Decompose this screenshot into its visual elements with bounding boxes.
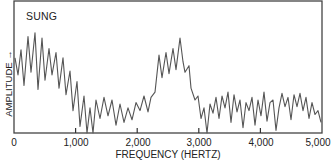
x-tick-label: 2,000 <box>125 137 150 148</box>
y-axis-label: AMPLITUDE → <box>3 48 14 120</box>
x-axis-ticks <box>76 128 261 133</box>
spectrum-trace <box>15 33 321 133</box>
chart-title: SUNG <box>26 10 57 22</box>
x-tick-label: 5,000 <box>305 137 330 148</box>
x-tick-label: 1,000 <box>63 137 88 148</box>
x-tick-label: 4,000 <box>248 137 273 148</box>
x-tick-label: 0 <box>11 137 17 148</box>
x-tick-label: 3,000 <box>186 137 211 148</box>
x-axis-label: FREQUENCY (HERTZ) <box>115 149 220 160</box>
